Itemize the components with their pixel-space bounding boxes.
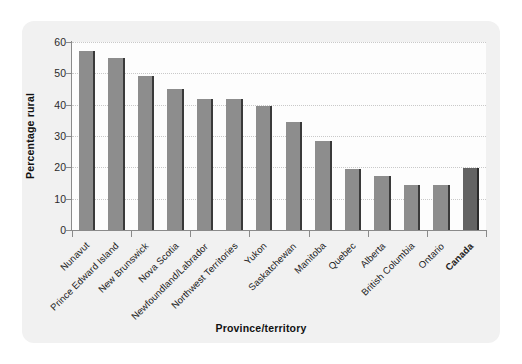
gridline [72,105,486,106]
bar-british-columbia [404,185,421,230]
gridline [72,167,486,168]
bar-quebec [345,169,362,230]
y-tick-mark [66,105,71,106]
y-tick-label: 50 [54,67,66,79]
bar-nunavut [79,51,96,230]
y-tick-mark [66,42,71,43]
bar-prince-edward-island [108,58,125,230]
gridline [72,136,486,137]
y-tick-label: 30 [54,130,66,142]
y-axis-line [71,41,72,231]
gridline [72,199,486,200]
bar-nova-scotia [167,89,184,230]
bar-manitoba [315,141,332,230]
x-tick-mark [309,231,310,237]
x-tick-mark [72,231,73,237]
y-tick-mark [66,230,71,231]
x-tick-mark [190,231,191,237]
y-tick-label: 40 [54,99,66,111]
y-tick-mark [66,199,71,200]
bar-canada [463,168,480,230]
bar-northwest-territories [226,99,243,230]
bar-alberta [374,176,391,230]
bar-newfoundland-labrador [197,99,214,230]
y-axis-title: Percentage rural [24,93,36,179]
gridline [72,42,486,43]
x-axis-title: Province/territory [0,322,522,334]
x-tick-mark [249,231,250,237]
y-tick-mark [66,167,71,168]
plot-area [72,42,486,230]
x-axis-line [71,230,487,231]
bar-saskatchewan [286,122,303,230]
bar-yukon [256,106,273,230]
y-tick-mark [66,136,71,137]
bar-ontario [433,185,450,230]
x-tick-mark [486,231,487,237]
y-tick-mark [66,73,71,74]
x-tick-mark [131,231,132,237]
bar-new-brunswick [138,76,155,230]
x-tick-mark [368,231,369,237]
y-tick-label: 60 [54,36,66,48]
y-tick-label: 10 [54,193,66,205]
x-tick-mark [427,231,428,237]
y-tick-label: 20 [54,161,66,173]
chart-figure: 0102030405060 NunavutPrince Edward Islan… [0,0,522,364]
gridline [72,73,486,74]
